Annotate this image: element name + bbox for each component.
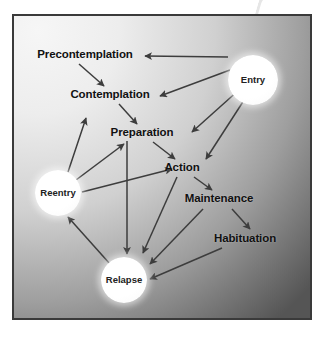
node-label-entry: Entry (241, 75, 265, 85)
node-contemplation[interactable]: Contemplation (70, 89, 149, 101)
node-relapse[interactable]: Relapse (101, 257, 147, 303)
node-reentry[interactable]: Reentry (35, 170, 81, 216)
node-precontemplation[interactable]: Precontemplation (37, 49, 133, 61)
node-action[interactable]: Action (164, 162, 199, 174)
node-entry[interactable]: Entry (228, 55, 278, 105)
diagram-frame: PrecontemplationContemplationPreparation… (12, 14, 312, 320)
node-maintenance[interactable]: Maintenance (185, 193, 254, 205)
node-label-reentry: Reentry (40, 188, 75, 198)
figure-stage: PrecontemplationContemplationPreparation… (0, 0, 325, 340)
node-label-relapse: Relapse (106, 275, 142, 285)
edge-entry-precontemplation (145, 56, 228, 57)
node-habituation[interactable]: Habituation (214, 233, 276, 245)
node-preparation[interactable]: Preparation (111, 127, 174, 139)
